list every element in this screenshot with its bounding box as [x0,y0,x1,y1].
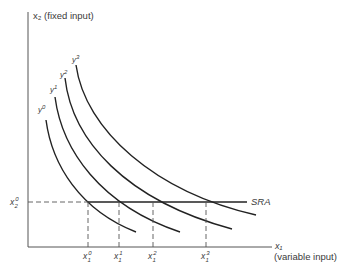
curve-label-y2: y2 [59,69,68,79]
x-tick-x1-1: x11 [113,250,122,263]
fixed-level-label: x02 [9,196,19,209]
isoquant-y2 [65,78,232,229]
isoquant-y1 [55,97,180,232]
sra-label: SRA [251,196,271,207]
curve-label-y0: y0 [37,104,46,114]
isoquant-diagram: x₂ (fixed input) x₁ (variable input) y0 … [0,0,339,271]
x-tick-x1-3: x31 [200,250,210,263]
y-axis-label: x₂ (fixed input) [33,10,94,21]
x-tick-x1-2: x21 [147,250,157,263]
x-axis-desc-label: (variable input) [274,251,337,262]
x-axis-var-label: x₁ [274,241,283,251]
curve-label-y1: y1 [49,84,57,94]
curve-label-y3: y3 [71,54,80,64]
isoquant-y3 [76,65,256,215]
x-tick-x1-0: x01 [82,250,92,263]
